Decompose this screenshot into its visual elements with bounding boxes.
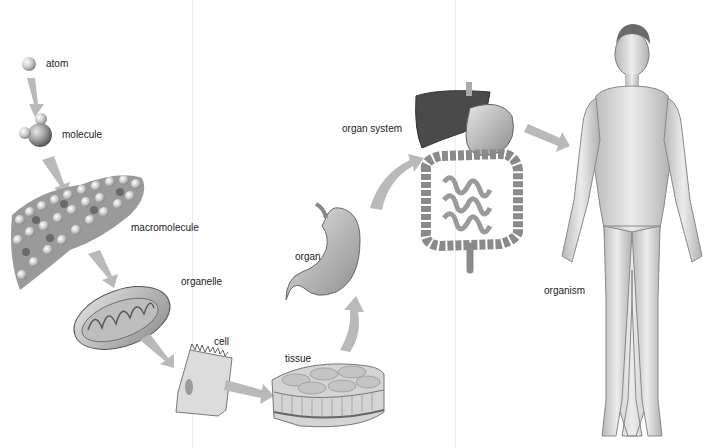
- arrow-icon: [88, 250, 118, 288]
- organelle-illustration: [65, 275, 178, 362]
- label-molecule: molecule: [62, 129, 102, 140]
- label-atom: atom: [46, 58, 68, 69]
- label-organism: organism: [544, 285, 585, 296]
- tissue-illustration: [272, 364, 384, 427]
- label-organ: organ: [295, 251, 321, 262]
- atom-illustration: [22, 57, 36, 71]
- arrow-icon: [340, 296, 364, 352]
- molecule-illustration: [19, 113, 52, 147]
- arrow-icon: [27, 78, 44, 117]
- label-tissue: tissue: [285, 353, 311, 364]
- organ-system-illustration: [416, 82, 518, 270]
- macromolecule-illustration: [11, 175, 144, 290]
- arrow-icon: [140, 334, 174, 368]
- cell-illustration: [176, 344, 232, 416]
- hierarchy-illustration: [0, 0, 724, 448]
- label-organelle: organelle: [181, 276, 222, 287]
- arrow-icon: [524, 124, 570, 152]
- organism-illustration: [562, 24, 702, 436]
- label-macromolecule: macromolecule: [131, 222, 199, 233]
- label-organ-system: organ system: [342, 123, 402, 134]
- label-cell: cell: [214, 336, 229, 347]
- arrow-icon: [370, 154, 424, 210]
- arrow-icon: [224, 380, 274, 404]
